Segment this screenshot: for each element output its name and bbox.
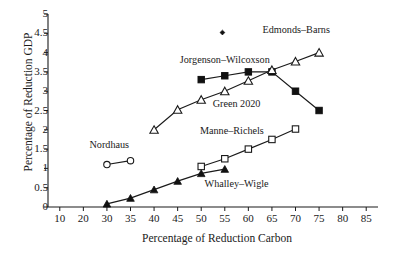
series-label: Green 2020 (213, 98, 261, 109)
series-label: Jorgenson–Wilcoxson (180, 54, 270, 65)
data-point (245, 146, 251, 152)
series-label: Manne–Richels (200, 125, 264, 136)
data-point (222, 73, 228, 79)
chart-container: Percentage of Reduction GDP Percentage o… (0, 0, 393, 256)
plot-area: Jorgenson–WilcoxsonGreen 2020Manne–Riche… (0, 0, 393, 256)
data-point (198, 163, 204, 169)
data-point (222, 156, 228, 162)
data-point (221, 166, 229, 173)
series-nordhaus (104, 157, 134, 167)
data-point (173, 106, 181, 114)
data-point (150, 186, 158, 193)
data-point (127, 195, 135, 202)
data-point (127, 157, 133, 163)
data-point (244, 77, 252, 85)
data-point (245, 69, 251, 75)
data-point (104, 161, 110, 167)
data-point (198, 76, 204, 82)
data-point (197, 96, 205, 104)
data-point (221, 87, 229, 95)
data-point (292, 88, 298, 94)
data-point (269, 136, 275, 142)
data-point (174, 178, 182, 185)
series-label: Whalley–Wigle (205, 178, 270, 189)
series-edmonds-barns (220, 30, 225, 35)
legend-marker (220, 30, 225, 35)
series-label: Edmonds–Barns (263, 24, 330, 35)
data-point (291, 57, 299, 64)
series-label: Nordhaus (89, 139, 129, 150)
data-point (316, 107, 322, 113)
data-point (315, 49, 323, 57)
data-point (292, 126, 298, 132)
